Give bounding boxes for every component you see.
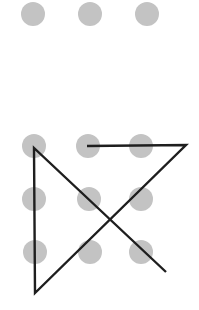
pattern-lock-canvas[interactable] (0, 0, 199, 310)
pattern-stroke-path (34, 145, 186, 293)
top-dot-2 (78, 2, 102, 26)
top-dot-3 (135, 2, 159, 26)
top-dot-1 (21, 2, 45, 26)
pattern-dot-9[interactable] (129, 240, 153, 264)
pattern-dot-8[interactable] (78, 240, 102, 264)
top-dot-row (21, 2, 159, 26)
